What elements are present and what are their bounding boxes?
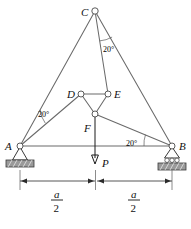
roller-wheel-2	[170, 158, 174, 162]
dimension-right-denominator: 2	[131, 202, 137, 214]
joint-C	[92, 8, 98, 14]
node-label-D: D	[66, 88, 75, 100]
angle-label-b: 20°	[126, 139, 137, 148]
dim-arrow-right-end	[165, 179, 171, 184]
node-label-B: B	[179, 140, 186, 152]
angle-label-c: 20°	[103, 45, 114, 54]
node-label-A: A	[4, 140, 12, 152]
joint-F	[92, 111, 98, 117]
node-label-C: C	[81, 6, 89, 18]
dimension-left-numerator: a	[54, 188, 60, 200]
angle-arc-b	[144, 135, 146, 146]
dimension-right-numerator: a	[131, 188, 137, 200]
joint-D	[78, 91, 84, 97]
truss-members	[20, 11, 172, 146]
dimension-lines	[20, 170, 172, 200]
member-C-B	[95, 11, 172, 146]
roller-wheel-1	[165, 158, 169, 162]
node-label-E: E	[113, 88, 121, 100]
truss-diagram-figure: C D E F A B 20° 20° 20° P a 2 a 2	[0, 0, 191, 229]
angle-label-a: 20°	[38, 110, 49, 119]
dim-arrow-left-start	[21, 179, 27, 184]
dim-arrow-left-end	[88, 179, 94, 184]
dimension-left-denominator: 2	[54, 202, 60, 214]
angle-arcs	[40, 37, 145, 146]
joint-B	[169, 143, 175, 149]
member-E-F	[95, 94, 108, 114]
load-label-P: P	[101, 157, 109, 169]
node-label-F: F	[83, 122, 91, 134]
joint-E	[105, 91, 111, 97]
dim-arrow-right-start	[98, 179, 104, 184]
joint-A	[17, 143, 23, 149]
diagram-labels: C D E F A B 20° 20° 20° P a 2 a 2	[4, 6, 186, 214]
member-A-D	[20, 94, 81, 146]
roller-wheel-3	[175, 158, 179, 162]
load-arrow-P	[92, 114, 99, 164]
member-D-F	[81, 94, 95, 114]
